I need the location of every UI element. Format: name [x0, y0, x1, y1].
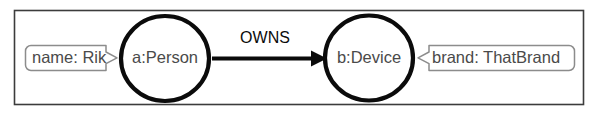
diagram-canvas: name: Rik OWNS a:Person b:Device brand: … — [0, 0, 598, 115]
graph-diagram: name: Rik OWNS a:Person b:Device brand: … — [0, 0, 598, 115]
property-box-name[interactable]: name: Rik — [26, 46, 118, 71]
node-a-person[interactable]: a:Person — [121, 16, 209, 101]
node-b-device-label: b:Device — [337, 48, 401, 66]
property-box-brand[interactable]: brand: ThatBrand — [418, 46, 575, 71]
node-a-person-label: a:Person — [132, 48, 198, 66]
node-b-device[interactable]: b:Device — [325, 16, 413, 101]
property-box-name-label: name: Rik — [32, 48, 107, 66]
relationship-owns-label: OWNS — [240, 29, 290, 46]
property-box-brand-label: brand: ThatBrand — [432, 48, 560, 66]
